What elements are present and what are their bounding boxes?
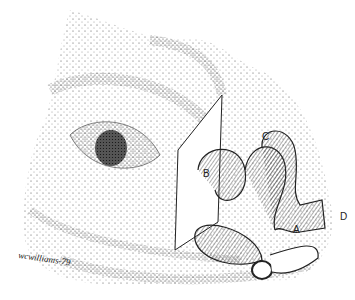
label-d: D — [340, 211, 347, 222]
label-b: B — [203, 168, 210, 179]
illustration: B C A D wcwilliams-79 — [0, 0, 355, 300]
illustration-drawing: B C A D wcwilliams-79 — [0, 0, 355, 300]
label-c: C — [262, 131, 269, 142]
label-a: A — [293, 224, 300, 235]
